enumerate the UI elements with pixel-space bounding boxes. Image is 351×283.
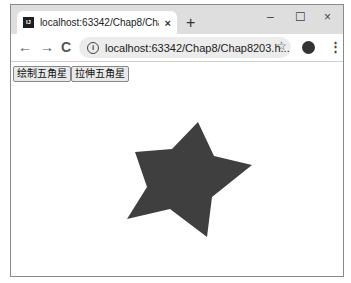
canvas	[0, 0, 351, 283]
five-point-star	[127, 122, 252, 237]
